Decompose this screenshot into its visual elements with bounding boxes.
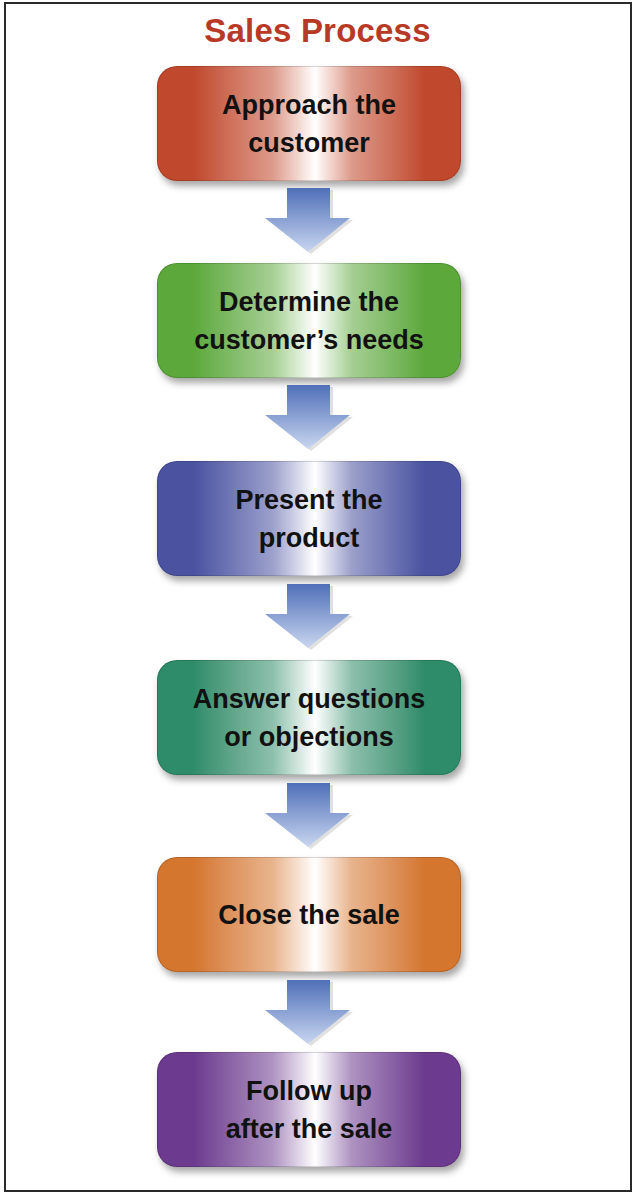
step-label: Close the sale xyxy=(208,896,410,934)
down-arrow-icon xyxy=(262,385,354,451)
step-follow-up: Follow up after the sale xyxy=(157,1052,461,1167)
step-label: Determine the customer’s needs xyxy=(184,283,434,359)
down-arrow-icon xyxy=(262,584,354,650)
step-label: Answer questions or objections xyxy=(183,680,436,756)
step-answer-questions: Answer questions or objections xyxy=(157,660,461,775)
step-label: Present the product xyxy=(225,481,392,557)
down-arrow-icon xyxy=(262,783,354,849)
step-label: Approach the customer xyxy=(212,86,406,162)
step-close-sale: Close the sale xyxy=(157,857,461,972)
step-present-product: Present the product xyxy=(157,461,461,576)
step-determine-needs: Determine the customer’s needs xyxy=(157,263,461,378)
down-arrow-icon xyxy=(262,188,354,254)
diagram-title: Sales Process xyxy=(0,12,635,50)
step-approach-customer: Approach the customer xyxy=(157,66,461,181)
down-arrow-icon xyxy=(262,980,354,1046)
step-label: Follow up after the sale xyxy=(216,1072,403,1148)
